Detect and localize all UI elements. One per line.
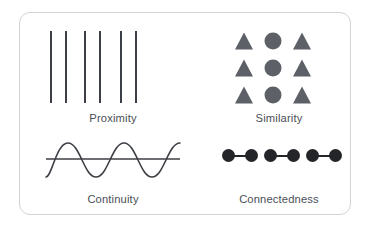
dot-icon: [287, 149, 300, 162]
triangle-icon: [235, 87, 253, 104]
connectedness-illustration: [206, 135, 352, 183]
proximity-line-3: [84, 31, 86, 103]
circle-icon: [265, 60, 282, 77]
dot-icon: [264, 149, 277, 162]
similarity-triangle-r1c1: [233, 30, 255, 52]
dot-icon: [245, 149, 258, 162]
continuity-sine-wave: [46, 143, 180, 177]
quadrant-proximity: Proximity: [40, 21, 186, 126]
similarity-triangle-r2c3: [291, 57, 313, 79]
similarity-illustration: [206, 30, 352, 106]
similarity-circle-r3c2: [262, 84, 284, 106]
continuity-svg: [40, 135, 186, 183]
similarity-circle-r2c2: [262, 57, 284, 79]
similarity-triangle-r2c1: [233, 57, 255, 79]
circle-icon: [265, 33, 282, 50]
proximity-line-6: [135, 31, 137, 103]
dot-icon: [329, 149, 342, 162]
dot-icon: [306, 149, 319, 162]
triangle-icon: [235, 60, 253, 77]
similarity-triangle-r3c3: [291, 84, 313, 106]
triangle-icon: [293, 87, 311, 104]
proximity-line-5: [120, 31, 122, 103]
proximity-label: Proximity: [40, 112, 186, 124]
continuity-illustration: [40, 135, 186, 183]
similarity-triangle-r3c1: [233, 84, 255, 106]
similarity-label: Similarity: [206, 112, 352, 124]
similarity-circle-r1c2: [262, 30, 284, 52]
similarity-triangle-r1c3: [291, 30, 313, 52]
proximity-line-4: [99, 31, 101, 103]
triangle-icon: [293, 33, 311, 50]
triangle-icon: [235, 33, 253, 50]
proximity-line-1: [50, 31, 52, 103]
circle-icon: [265, 87, 282, 104]
quadrant-connectedness: Connectedness: [206, 131, 352, 219]
proximity-line-2: [65, 31, 67, 103]
continuity-label: Continuity: [40, 193, 186, 205]
dot-icon: [222, 149, 235, 162]
quadrant-similarity: Similarity: [206, 21, 352, 126]
gestalt-principles-diagram: Proximity Similarity: [0, 0, 370, 228]
triangle-icon: [293, 60, 311, 77]
connectedness-label: Connectedness: [206, 193, 352, 205]
proximity-illustration: [40, 31, 186, 103]
diagram-card: Proximity Similarity: [19, 12, 351, 215]
quadrant-continuity: Continuity: [40, 131, 186, 219]
